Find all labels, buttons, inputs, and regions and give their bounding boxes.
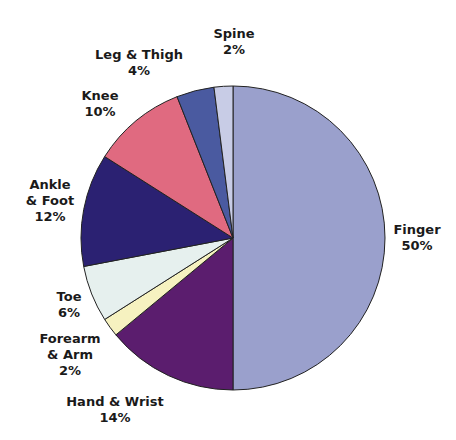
- label-forearm-arm-value: 2%: [39, 363, 100, 379]
- label-forearm-arm: Forearm & Arm 2%: [39, 331, 100, 379]
- label-finger-value: 50%: [393, 238, 440, 254]
- label-toe-name: Toe: [57, 289, 82, 305]
- label-spine: Spine 2%: [213, 26, 254, 58]
- label-toe-value: 6%: [57, 305, 82, 321]
- label-leg-thigh-name: Leg & Thigh: [95, 47, 183, 63]
- label-hand-wrist: Hand & Wrist 14%: [66, 394, 164, 426]
- label-spine-value: 2%: [213, 42, 254, 58]
- label-forearm-arm-name: Forearm: [39, 331, 100, 347]
- label-hand-wrist-name: Hand & Wrist: [66, 394, 164, 410]
- label-hand-wrist-value: 14%: [66, 410, 164, 426]
- label-knee: Knee 10%: [82, 88, 119, 120]
- label-leg-thigh: Leg & Thigh 4%: [95, 47, 183, 79]
- label-ankle-foot-value: 12%: [26, 209, 74, 225]
- label-finger-name: Finger: [393, 222, 440, 238]
- pie-slice-finger: [233, 86, 385, 390]
- label-spine-name: Spine: [213, 26, 254, 42]
- label-ankle-foot-name2: & Foot: [26, 193, 74, 209]
- label-leg-thigh-value: 4%: [95, 63, 183, 79]
- label-knee-name: Knee: [82, 88, 119, 104]
- label-ankle-foot: Ankle & Foot 12%: [26, 177, 74, 225]
- label-knee-value: 10%: [82, 104, 119, 120]
- label-finger: Finger 50%: [393, 222, 440, 254]
- label-forearm-arm-name2: & Arm: [39, 347, 100, 363]
- label-ankle-foot-name: Ankle: [26, 177, 74, 193]
- label-toe: Toe 6%: [57, 289, 82, 321]
